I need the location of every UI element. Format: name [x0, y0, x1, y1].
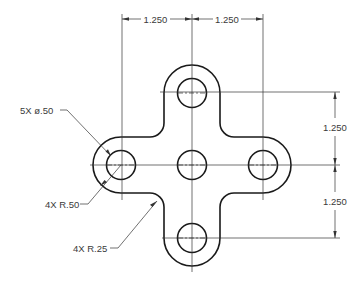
dim-horizontal-right: 1.250 — [215, 14, 239, 25]
dim-horizontal-left: 1.250 — [144, 14, 168, 25]
dim-vertical-top: 1.250 — [323, 122, 347, 133]
dim-vertical-bottom: 1.250 — [323, 196, 347, 207]
callout-outer-radius-label: 4X R.50 — [45, 199, 79, 210]
callout-holes-label: 5X ø.50 — [20, 105, 53, 116]
callout-outer-radius: 4X R.50 — [45, 165, 121, 210]
callout-fillet-radius-label: 4X R.25 — [73, 243, 107, 254]
center-lines — [90, 14, 340, 272]
callout-holes: 5X ø.50 — [20, 105, 111, 156]
horizontal-dimension: 1.250 1.250 — [122, 14, 263, 25]
callout-fillet-radius: 4X R.25 — [73, 201, 157, 254]
technical-drawing: 1.250 1.250 1.250 1.250 5X ø.50 4X R.50 … — [0, 0, 363, 290]
